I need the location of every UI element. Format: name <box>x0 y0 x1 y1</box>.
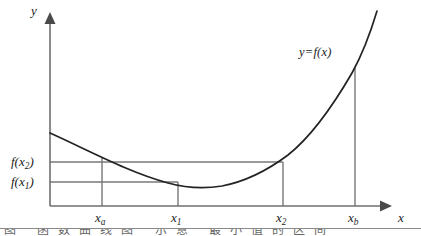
y-axis-arrowhead <box>45 12 56 24</box>
xa-subscript: a <box>101 217 106 227</box>
fx2-base: f(x <box>11 154 25 169</box>
x-tick-label-xb: xb <box>348 211 358 227</box>
function-curve <box>50 11 377 188</box>
fx1-base: f(x <box>11 174 25 189</box>
caption-clip-region: 图 函数曲线图 示意 最小值的区间 <box>0 229 421 236</box>
curve-equation-label: y=f(x) <box>299 46 332 59</box>
fx2-close-paren: ) <box>29 154 33 169</box>
function-plot-svg <box>0 0 421 236</box>
y-axis-label: y <box>31 4 37 17</box>
xb-subscript: b <box>354 217 359 227</box>
fx1-close-paren: ) <box>29 174 33 189</box>
x-tick-label-x2: x2 <box>276 211 286 227</box>
figure-caption: 图 函数曲线图 示意 最小值的区间 <box>4 229 335 236</box>
x-axis-label: x <box>398 211 404 224</box>
curve-label-close-paren: ) <box>327 45 331 59</box>
y-value-label-fx1: f(x1) <box>11 175 34 191</box>
x-axis-arrowhead <box>380 201 392 212</box>
x-tick-label-xa: xa <box>95 211 105 227</box>
figure-container: y x y=f(x) f(x2) f(x1) xa x1 x2 xb 图 函数曲… <box>0 0 421 236</box>
y-value-label-fx2: f(x2) <box>11 155 34 171</box>
x1-subscript: 1 <box>177 217 182 227</box>
x2-subscript: 2 <box>282 217 287 227</box>
x-tick-label-x1: x1 <box>171 211 181 227</box>
